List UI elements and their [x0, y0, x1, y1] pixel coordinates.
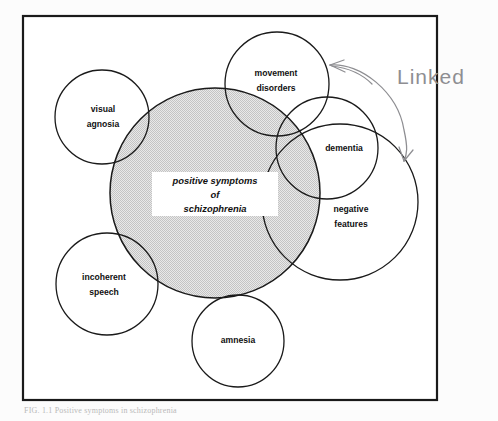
center-label-line1: positive symptoms — [172, 175, 258, 186]
label-visual-agnosia-line2: agnosia — [87, 119, 120, 129]
label-amnesia: amnesia — [221, 335, 256, 345]
label-incoherent-speech-line1: incoherent — [82, 272, 126, 282]
center-label-line2: of — [211, 189, 221, 200]
handwritten-linked-note: Linked — [397, 65, 465, 88]
label-dementia: dementia — [325, 143, 363, 153]
label-negative-features-line2: features — [334, 219, 368, 229]
label-movement-disorders-line1: movement — [255, 68, 298, 78]
label-visual-agnosia-line1: visual — [91, 104, 115, 114]
label-incoherent-speech-line2: speech — [89, 287, 119, 297]
label-movement-disorders-line2: disorders — [256, 83, 295, 93]
label-negative-features-line1: negative — [334, 204, 369, 214]
venn-diagram-figure: positive symptoms of schizophrenia visua… — [0, 0, 498, 421]
figure-page: positive symptoms of schizophrenia visua… — [0, 0, 498, 421]
center-label-line3: schizophrenia — [183, 203, 246, 214]
figure-caption: FIG. 1.1 Positive symptoms in schizophre… — [24, 406, 177, 415]
